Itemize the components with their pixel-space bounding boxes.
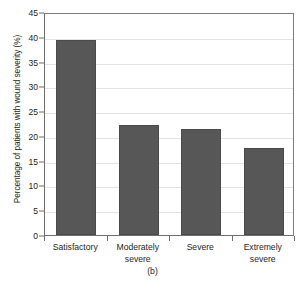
bar-slot bbox=[45, 14, 108, 235]
x-axis-category-label: Extremelysevere bbox=[232, 242, 295, 265]
y-axis-tick-label: 40 bbox=[0, 33, 44, 43]
bar bbox=[119, 125, 159, 236]
x-axis-category-label: Satisfactory bbox=[44, 242, 107, 254]
x-axis-category-label-line: Extremely bbox=[244, 242, 282, 252]
y-axis-tick-label: 20 bbox=[0, 132, 44, 142]
x-axis-tick-mark bbox=[294, 236, 295, 241]
y-axis-tick-label: 25 bbox=[0, 107, 44, 117]
plot-area bbox=[44, 13, 294, 236]
bar-series bbox=[45, 14, 293, 235]
bar bbox=[181, 129, 221, 235]
x-axis-category-label-line: severe bbox=[232, 254, 295, 266]
bar-slot bbox=[108, 14, 171, 235]
x-axis-category-label-line: Severe bbox=[187, 242, 214, 252]
x-axis-category-label-line: severe bbox=[107, 254, 170, 266]
x-axis-category-label-line: Moderately bbox=[116, 242, 159, 252]
y-axis-tick-label: 5 bbox=[0, 206, 44, 216]
figure-caption: (b) bbox=[0, 266, 305, 276]
bar-chart-figure: Percentage of patients with wound severi… bbox=[0, 0, 305, 284]
bar-slot bbox=[233, 14, 296, 235]
bar bbox=[244, 148, 284, 235]
y-axis-tick-label: 35 bbox=[0, 58, 44, 68]
x-axis-tick-mark bbox=[107, 236, 108, 241]
bar-slot bbox=[170, 14, 233, 235]
y-axis-tick-label: 45 bbox=[0, 8, 44, 18]
y-axis-tick-label: 30 bbox=[0, 82, 44, 92]
x-axis-tick-mark bbox=[44, 236, 45, 241]
x-axis-tick-mark bbox=[169, 236, 170, 241]
y-axis-tick-label: 15 bbox=[0, 157, 44, 167]
x-axis-tick-mark bbox=[232, 236, 233, 241]
x-axis-category-label: Severe bbox=[169, 242, 232, 254]
y-axis-tick-label: 10 bbox=[0, 181, 44, 191]
y-axis-tick-label: 0 bbox=[0, 231, 44, 241]
bar bbox=[56, 40, 96, 235]
x-axis-category-label: Moderatelysevere bbox=[107, 242, 170, 265]
x-axis-category-label-line: Satisfactory bbox=[53, 242, 98, 252]
